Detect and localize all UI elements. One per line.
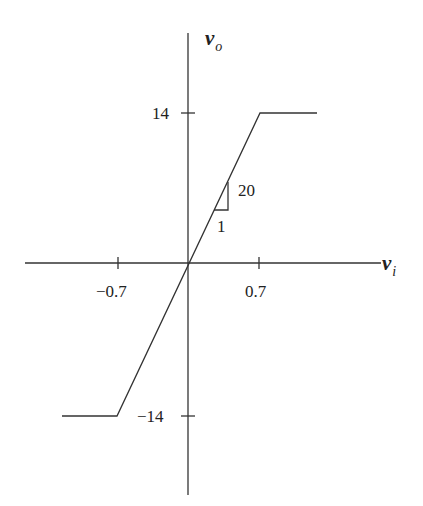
tick-label-x-neg: −0.7: [96, 283, 127, 300]
tick-label-y-neg: −14: [137, 408, 164, 425]
tick-label-y-pos: 14: [152, 105, 169, 122]
transfer-curve: [62, 113, 317, 416]
slope-run-label: 1: [217, 218, 226, 235]
x-axis-label: vi: [382, 253, 395, 274]
tick-label-x-pos: 0.7: [245, 283, 266, 300]
slope-rise-label: 20: [238, 182, 255, 199]
transfer-characteristic-plot: [0, 0, 423, 506]
y-axis-label: vo: [205, 28, 221, 49]
